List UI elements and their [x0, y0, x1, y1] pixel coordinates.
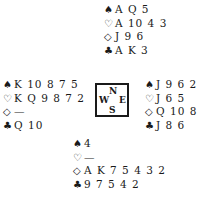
club-icon: ♣: [145, 119, 156, 133]
club-icon: ♣: [104, 44, 115, 58]
west-hearts: ♡K Q 9 8 7 2: [3, 92, 85, 106]
north-hand: ♠A Q 5 ♡A 10 4 3 ◇J 9 6 ♣A K 3: [104, 3, 167, 57]
diamond-icon: ◇: [145, 105, 156, 119]
heart-icon: ♡: [104, 17, 115, 31]
compass-north: N: [109, 87, 117, 96]
compass-box: N W E S: [95, 83, 129, 117]
north-clubs: ♣A K 3: [104, 44, 167, 58]
west-clubs: ♣Q 10: [3, 119, 85, 133]
spade-icon: ♠: [104, 3, 115, 17]
east-diamonds: ◇Q 10 8: [145, 105, 197, 119]
east-hearts: ♡J 6 5: [145, 92, 197, 106]
south-diamonds: ◇A K 7 5 4 3 2: [73, 164, 166, 178]
spade-icon: ♠: [3, 78, 14, 92]
heart-icon: ♡: [73, 151, 84, 165]
north-spades: ♠A Q 5: [104, 3, 167, 17]
west-hand: ♠K 10 8 7 5 ♡K Q 9 8 7 2 ◇— ♣Q 10: [3, 78, 85, 132]
west-spades: ♠K 10 8 7 5: [3, 78, 85, 92]
north-hearts: ♡A 10 4 3: [104, 17, 167, 31]
south-spades: ♠4: [73, 137, 166, 151]
club-icon: ♣: [73, 178, 84, 192]
spade-icon: ♠: [73, 137, 84, 151]
east-spades: ♠J 9 6 2: [145, 78, 197, 92]
diamond-icon: ◇: [104, 30, 115, 44]
east-hand: ♠J 9 6 2 ♡J 6 5 ◇Q 10 8 ♣J 8 6: [145, 78, 197, 132]
south-hearts: ♡—: [73, 151, 166, 165]
diamond-icon: ◇: [73, 164, 84, 178]
club-icon: ♣: [3, 119, 14, 133]
east-clubs: ♣J 8 6: [145, 119, 197, 133]
spade-icon: ♠: [145, 78, 156, 92]
compass-west: W: [99, 96, 109, 105]
north-diamonds: ◇J 9 6: [104, 30, 167, 44]
diamond-icon: ◇: [3, 105, 14, 119]
heart-icon: ♡: [3, 92, 14, 106]
compass-south: S: [109, 106, 116, 115]
heart-icon: ♡: [145, 92, 156, 106]
south-hand: ♠4 ♡— ◇A K 7 5 4 3 2 ♣9 7 5 4 2: [73, 137, 166, 191]
west-diamonds: ◇—: [3, 105, 85, 119]
compass-east: E: [119, 96, 126, 105]
south-clubs: ♣9 7 5 4 2: [73, 178, 166, 192]
